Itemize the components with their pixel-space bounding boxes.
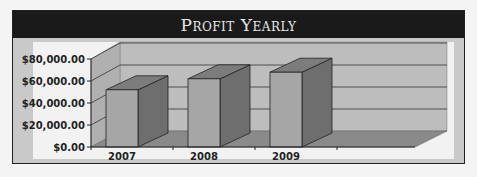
y-tick-label: $60,000.00 [22, 76, 85, 87]
y-tick-label: $0.00 [53, 142, 85, 153]
bar-front [188, 79, 220, 147]
x-tick-label: 2008 [190, 151, 218, 162]
chart-plot: $0.00$20,000.00$40,000.00$60,000.00$80,0… [0, 0, 477, 177]
bar-side [302, 58, 332, 147]
bar-front [270, 72, 302, 147]
x-tick-label: 2009 [272, 151, 300, 162]
y-tick-label: $40,000.00 [22, 98, 85, 109]
bar-front [106, 90, 138, 147]
x-tick-label: 2007 [108, 151, 136, 162]
y-tick-label: $80,000.00 [22, 54, 85, 65]
y-tick-label: $20,000.00 [22, 120, 85, 131]
